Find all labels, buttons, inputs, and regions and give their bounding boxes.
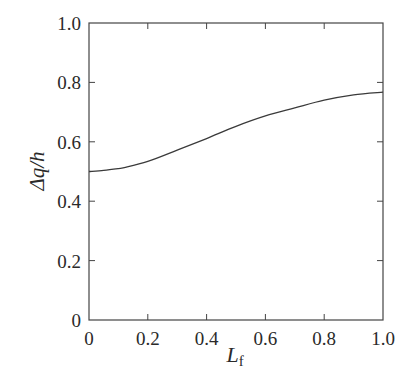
x-tick-label: 0.4: [195, 328, 219, 349]
y-axis-label: Δq/h: [25, 151, 49, 191]
x-tick-label: 0: [84, 328, 94, 349]
y-tick-label: 0.4: [57, 191, 81, 212]
x-tick-label: 0.2: [136, 328, 160, 349]
y-tick-label: 0: [72, 310, 82, 331]
x-axis-label: Lf: [225, 342, 243, 369]
plot-border: [89, 23, 383, 320]
y-tick-label: 0.8: [57, 72, 81, 93]
y-tick-label: 0.2: [57, 251, 81, 272]
x-axis-label-subscript: f: [239, 353, 244, 369]
x-tick-label: 0.8: [312, 328, 336, 349]
plot-frame: [89, 23, 383, 320]
x-tick-label: 0.6: [254, 328, 278, 349]
y-tick-labels: 00.20.40.60.81.0: [57, 13, 81, 331]
data-line: [89, 92, 383, 171]
x-tick-label: 1.0: [371, 328, 395, 349]
y-tick-label: 0.6: [57, 132, 81, 153]
axis-ticks: [89, 23, 383, 320]
x-tick-labels: 00.20.40.60.81.0: [84, 328, 395, 349]
line-chart: 00.20.40.60.81.0 00.20.40.60.81.0 Lf Δq/…: [0, 0, 413, 392]
y-tick-label: 1.0: [57, 13, 81, 34]
x-axis-label-main: L: [225, 342, 238, 367]
